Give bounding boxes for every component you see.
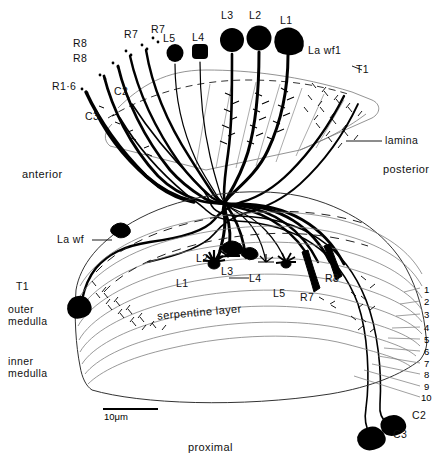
soma-L5: [167, 44, 184, 62]
label-C3-bottom: C3: [393, 428, 407, 440]
terminal-C2C3: [319, 276, 375, 332]
label-R1-6: R1·6: [52, 80, 76, 92]
label-R7-a: R7: [124, 28, 138, 40]
label-C2-bottom: C2: [412, 409, 426, 421]
neuroanatomy-figure: R1·6 R8 R8 R7 R7 C2 C3 L5 L4 L3 L2 L1 La…: [0, 0, 443, 465]
stratum-number-4: 4: [424, 322, 429, 333]
somata-lamina: [167, 26, 304, 63]
scale-bar-label: 10μm: [104, 411, 128, 422]
label-L3-med: L3: [221, 265, 233, 277]
label-outer-medulla-line2: medulla: [8, 315, 48, 327]
stratum-number-9: 9: [424, 381, 429, 392]
soma-L1: [274, 28, 304, 56]
label-inner-medulla-line1: inner: [8, 355, 33, 367]
stratum-number-6: 6: [424, 346, 429, 357]
label-R8-a: R8: [73, 37, 87, 49]
label-L4-top: L4: [192, 31, 204, 43]
stratum-number-2: 2: [424, 296, 429, 307]
label-anterior: anterior: [22, 168, 63, 180]
soma-L4: [192, 44, 208, 59]
soma-L2: [247, 26, 272, 51]
label-L2-med: L2: [196, 252, 208, 264]
stratum-number-7: 7: [424, 358, 429, 369]
medulla-strata-lines: [78, 212, 422, 384]
soma-L3: [220, 28, 244, 52]
label-L5-med: L5: [273, 287, 285, 299]
label-posterior: posterior: [383, 163, 429, 175]
label-L3-top: L3: [221, 9, 233, 21]
label-R7-med: R7: [300, 291, 314, 303]
soma-C3-bottom: [357, 426, 386, 450]
medulla-outline: [75, 192, 427, 403]
label-C3-top: C3: [85, 110, 99, 122]
label-C2-top: C2: [114, 85, 128, 97]
label-inner-medulla-line2: medulla: [8, 367, 48, 379]
label-L1-med: L1: [176, 277, 188, 289]
label-L2-top: L2: [249, 9, 261, 21]
terminal-L5: [276, 253, 296, 268]
terminal-L3: [241, 248, 258, 260]
stratum-number-1: 1: [424, 284, 429, 295]
label-L5-top: L5: [163, 32, 175, 44]
label-outer-medulla-line1: outer: [8, 303, 34, 315]
stratum-number-5: 5: [424, 334, 429, 345]
stratum-leader-lines: [354, 288, 420, 397]
label-L4-med: L4: [249, 272, 261, 284]
stratum-number-3: 3: [424, 309, 429, 320]
stratum-number-10: 10: [421, 392, 432, 403]
label-proximal: proximal: [188, 441, 233, 453]
terminal-T1: [92, 281, 166, 330]
terminal-La-wf: [111, 223, 131, 238]
terminal-R7: [302, 250, 320, 292]
label-T1-top: T1: [356, 63, 369, 75]
lamina-cartridges: [196, 82, 344, 168]
label-lamina: lamina: [385, 134, 418, 146]
label-R8-b: R8: [73, 52, 87, 64]
label-R8-med: R8: [325, 272, 339, 284]
stratum-number-8: 8: [424, 369, 429, 380]
label-La-wf1: La wf1: [308, 44, 341, 56]
label-L1-top: L1: [280, 14, 292, 26]
label-La-wf: La wf: [57, 233, 84, 245]
label-T1-med: T1: [16, 280, 29, 292]
